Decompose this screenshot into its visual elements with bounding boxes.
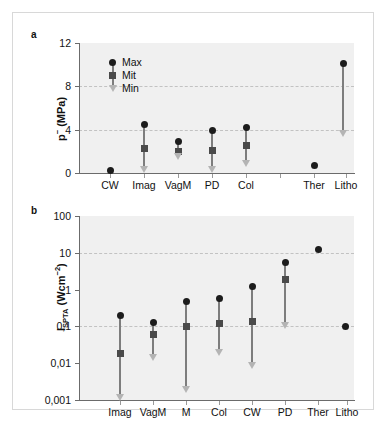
panel-b-ther-max [315,246,322,253]
panel-b-xtick-pd [285,401,286,405]
panel-a-ytick-label-8: 8 [43,80,71,92]
panel-b-imag-min [116,394,124,401]
panel-b-xtick-cw [252,401,253,405]
panel-b-ytick-0.01 [75,363,79,364]
panel-a-letter: a [31,29,37,40]
panel-a-imag-min [140,166,148,173]
panel-b-pd-connector [284,262,286,326]
panel-b-col-mit [216,320,223,327]
panel-b-xtick-col [219,401,220,405]
panel-b-imag-mit [117,350,124,357]
panel-b-xtick-imag [120,401,121,405]
panel-b-pd-mit [282,276,289,283]
panel-a-xtick-cw [110,174,111,178]
panel-a-ther-max [311,162,318,169]
panel-a-plot-area [79,43,354,173]
panel-a-ytick-12 [75,43,79,44]
panel-b-col-max [216,295,223,302]
panel-a-xtick-ther [314,174,315,178]
panel-a-ytick-8 [75,86,79,87]
panel-a-litho-connector [342,64,344,134]
panel-a-pd-min [208,166,216,173]
panel-b-m-connector [185,302,187,391]
panel-a: a p− (MPa) 12 8 4 0 Max Mit Min [13,13,375,203]
panel-a-vagm-min [174,153,182,160]
panel-a-ytick-label-12: 12 [43,37,71,49]
panel-b-ytick-label-0.001: 0,001 [31,394,71,406]
figure-frame: a p− (MPa) 12 8 4 0 Max Mit Min [12,12,374,410]
panel-a-legend-mit-label: Mit [122,69,136,81]
panel-a-imag-max [141,121,148,128]
panel-b-vagm-mit [150,331,157,338]
panel-a-xtick-litho [346,174,347,178]
panel-b-m-min [182,386,190,393]
panel-b-ytick-label-1: 1 [35,284,71,296]
panel-a-ytick-4 [75,130,79,131]
panel-a-imag-mit [141,145,148,152]
panel-a-legend-max-label: Max [122,56,142,68]
panel-b-ytick-label-0.01: 0,01 [35,357,71,369]
panel-a-xtick-imag [144,174,145,178]
panel-a-col-min [242,160,250,167]
panel-a-ytick-0 [75,173,79,174]
panel-b-pd-min [281,322,289,329]
panel-b-ytick-10 [75,253,79,254]
panel-a-litho-min [339,130,347,137]
panel-b-pd-max [282,259,289,266]
panel-a-pd-mit [209,147,216,154]
panel-b-litho-max [342,323,349,330]
panel-a-litho-max [340,60,347,67]
panel-b-xtick-vagm [153,401,154,405]
panel-b-cw-connector [251,286,253,366]
panel-a-xlabel-col: Col [224,179,268,191]
panel-a-gridline-8 [79,86,354,87]
panel-a-col-max [243,124,250,131]
panel-a-vagm-max [175,138,182,145]
panel-b-xlabel-litho: Litho [325,406,369,418]
panel-b: b ISPTA (Wcm−2) 100 10 1 0,1 0,01 0,001 [13,199,375,411]
panel-a-xtick-pd [212,174,213,178]
panel-b-ytick-1 [75,290,79,291]
panel-a-legend-min-icon [109,85,117,92]
panel-b-ytick-100 [75,216,79,217]
panel-b-y-axis [79,216,80,401]
panel-a-legend-mit-icon [109,72,116,79]
panel-a-legend-min-label: Min [122,82,139,94]
panel-b-vagm-max [150,319,157,326]
panel-b-imag-max [117,312,124,319]
panel-b-m-max [183,298,190,305]
panel-b-m-mit [183,323,190,330]
panel-b-ytick-label-100: 100 [35,210,71,222]
panel-a-gridline-4 [79,130,354,131]
panel-b-gridline-10 [79,253,354,254]
panel-a-legend-max-icon [109,59,116,66]
panel-a-xtick-blank [280,174,281,178]
panel-a-ytick-label-0: 0 [43,167,71,179]
panel-b-ytick-0.1 [75,326,79,327]
panel-a-col-mit [243,142,250,149]
panel-b-col-min [215,349,223,356]
panel-a-y-axis [79,43,80,174]
panel-a-xtick-vagm [178,174,179,178]
panel-b-xtick-litho [347,401,348,405]
panel-a-xlabel-litho: Litho [324,179,368,191]
panel-b-ytick-label-0.1: 0,1 [35,320,71,332]
panel-b-cw-min [248,362,256,369]
panel-b-ytick-label-10: 10 [35,247,71,259]
panel-b-xtick-ther [318,401,319,405]
panel-a-ytick-label-4: 4 [43,124,71,136]
panel-b-vagm-min [149,354,157,361]
panel-a-xtick-col [246,174,247,178]
panel-b-ytick-0.001 [75,400,79,401]
panel-b-cw-mit [249,318,256,325]
panel-b-cw-max [249,283,256,290]
panel-b-xtick-m [186,401,187,405]
panel-a-pd-max [209,127,216,134]
